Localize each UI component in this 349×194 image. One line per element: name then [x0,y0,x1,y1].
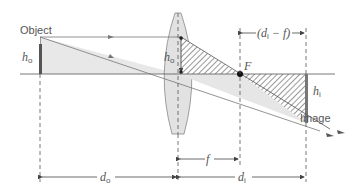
h-o-label: ho [22,50,33,65]
d-o-label: do [100,170,111,185]
lens-diagram: Object Image ho ho hi F do di f (di − f) [0,0,349,194]
d-i-label: di [238,170,246,185]
focal-point-label: F [243,59,252,73]
ray-arrowhead [337,130,345,134]
object-triangle-shade [40,37,178,74]
h-i-label: hi [313,84,321,99]
f-label: f [206,152,211,166]
di-minus-f-label: (di − f) [257,26,290,41]
object-label: Object [20,24,52,36]
image-label: Image [300,112,331,124]
object-arrow [39,44,42,74]
